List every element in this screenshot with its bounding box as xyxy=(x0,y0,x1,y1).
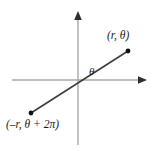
x-axis-arrowhead-icon xyxy=(138,76,147,84)
y-axis-arrowhead-icon xyxy=(74,11,82,20)
point-marker-upper xyxy=(126,49,131,54)
polar-ray-line xyxy=(31,51,128,113)
point-marker-lower xyxy=(29,111,34,116)
point-label-upper: (r, θ) xyxy=(107,30,129,42)
polar-coordinates-figure: (r, θ) (–r, θ + 2π) θ xyxy=(0,0,155,151)
angle-label-theta: θ xyxy=(89,66,94,77)
point-label-lower: (–r, θ + 2π) xyxy=(6,119,59,131)
